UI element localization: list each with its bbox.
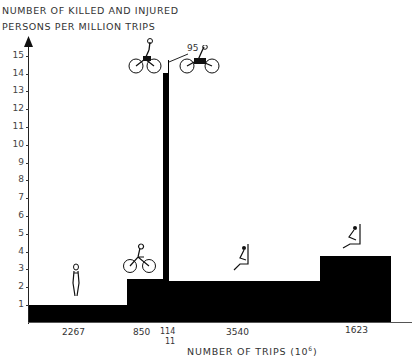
y-tick-label: 14 [8, 68, 24, 78]
y-tick-label: 4 [8, 246, 24, 256]
y-tick-mark [26, 287, 29, 288]
y-tick-label: 1 [8, 299, 24, 309]
y-tick-label: 2 [8, 281, 24, 291]
y-tick-label: 13 [8, 85, 24, 95]
y-tick-mark [26, 163, 29, 164]
y-tick-mark [26, 109, 29, 110]
bar-bicycle [127, 279, 163, 322]
x-axis-line [28, 322, 412, 323]
y-tick-label: 12 [8, 103, 24, 113]
pedestrian-icon [70, 263, 82, 299]
bar-walking [29, 305, 127, 322]
y-tick-label: 15 [8, 50, 24, 60]
y-tick-mark [26, 252, 29, 253]
bar-car-driver [168, 281, 320, 322]
x-axis-title: NUMBER OF TRIPS (106) [187, 345, 317, 357]
y-tick-label: 10 [8, 139, 24, 149]
y-tick-mark [26, 91, 29, 92]
y-tick-mark [26, 74, 29, 75]
y-tick-mark [26, 269, 29, 270]
y-tick-mark [26, 56, 29, 57]
y-tick-mark [26, 180, 29, 181]
cyclist-icon [122, 240, 158, 274]
x-label-moped: 114 [160, 327, 175, 336]
x-label-car-driver: 3540 [226, 327, 249, 337]
motorcycle-rider-icon [178, 45, 222, 75]
x-label-bicycle: 850 [133, 327, 150, 337]
bar-car-passenger [320, 256, 391, 322]
y-axis-title-line2: PERSONS PER MILLION TRIPS [2, 21, 155, 32]
y-tick-label: 8 [8, 174, 24, 184]
y-tick-label: 6 [8, 210, 24, 220]
y-tick-mark [26, 145, 29, 146]
y-tick-label: 7 [8, 192, 24, 202]
x-label-car-passenger: 1623 [345, 325, 368, 335]
x-label-light-motorcycle: 11 [165, 337, 175, 346]
y-tick-mark [26, 216, 29, 217]
car-driver-icon [232, 242, 254, 272]
car-passenger-icon [340, 222, 364, 252]
y-axis-line [28, 44, 29, 324]
y-tick-label: 9 [8, 157, 24, 167]
y-tick-mark [26, 127, 29, 128]
y-tick-label: 5 [8, 228, 24, 238]
y-tick-label: 11 [8, 121, 24, 131]
x-label-walking: 2267 [62, 327, 85, 337]
y-tick-mark [26, 234, 29, 235]
y-axis-arrow-icon [24, 36, 33, 48]
y-tick-label: 3 [8, 263, 24, 273]
y-tick-mark [26, 198, 29, 199]
moped-rider-icon [128, 38, 162, 76]
y-axis-title-line1: NUMBER OF KILLED AND INJURED [2, 5, 179, 16]
